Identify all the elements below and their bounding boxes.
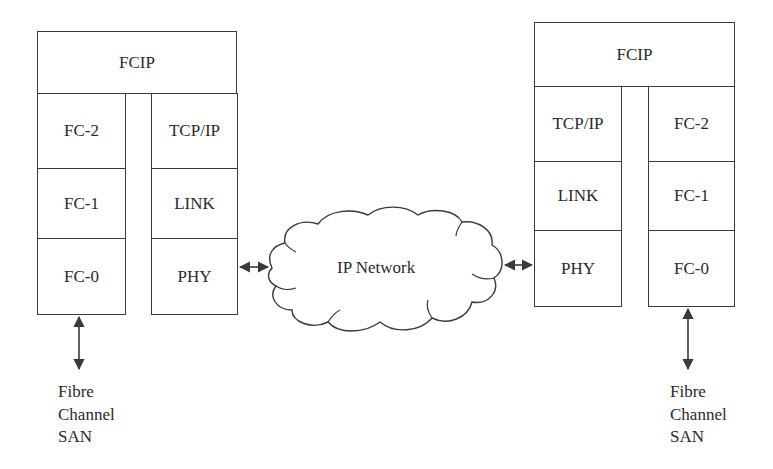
left-san-line-2: Channel (58, 404, 115, 427)
left-san-line-3: SAN (58, 426, 115, 449)
connectors-layer (0, 0, 773, 469)
left-san-label: Fibre Channel SAN (58, 381, 115, 449)
right-san-line-3: SAN (670, 426, 727, 449)
ip-network-label: IP Network (337, 258, 415, 278)
right-san-line-2: Channel (670, 404, 727, 427)
right-san-label: Fibre Channel SAN (670, 381, 727, 449)
left-san-line-1: Fibre (58, 381, 115, 404)
right-san-line-1: Fibre (670, 381, 727, 404)
